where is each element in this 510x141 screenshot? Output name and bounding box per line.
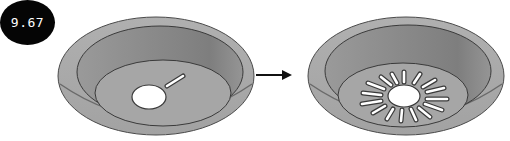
sink-before xyxy=(58,17,254,135)
sink-after xyxy=(308,17,504,135)
drain-hole xyxy=(132,85,166,109)
sink-diagram xyxy=(0,0,510,141)
drain-hole xyxy=(388,85,420,107)
right-arrow-icon xyxy=(256,70,292,80)
